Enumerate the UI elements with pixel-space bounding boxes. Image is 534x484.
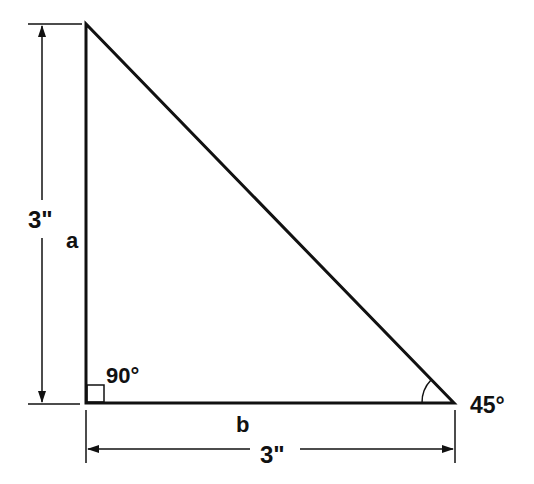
- side-b-label: b: [236, 412, 249, 437]
- height-dimension-label: 3": [28, 206, 53, 233]
- triangle-shape: [86, 24, 454, 403]
- angle-arc: [422, 380, 431, 403]
- right-angle-label: 90°: [106, 363, 139, 388]
- right-triangle-diagram: 3" a 3" b 90° 45°: [0, 0, 534, 484]
- base-dimension-label: 3": [260, 441, 285, 468]
- right-angle-marker: [87, 385, 104, 402]
- acute-angle-label: 45°: [470, 392, 505, 418]
- side-a-label: a: [66, 228, 79, 253]
